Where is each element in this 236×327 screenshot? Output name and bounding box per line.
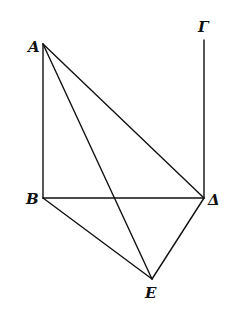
point-label-delta: Δ [207, 191, 220, 209]
segment-a-delta [43, 44, 204, 198]
point-label-a: A [26, 38, 40, 56]
point-label-e: E [144, 284, 157, 302]
diagram-svg: ABΓΔE [0, 0, 236, 327]
segment-delta-e [152, 198, 204, 279]
point-label-gamma: Γ [197, 18, 210, 36]
geometry-diagram: ABΓΔE [0, 0, 236, 327]
segment-a-e [43, 44, 152, 279]
segment-b-e [43, 198, 152, 279]
point-label-b: B [25, 190, 39, 208]
